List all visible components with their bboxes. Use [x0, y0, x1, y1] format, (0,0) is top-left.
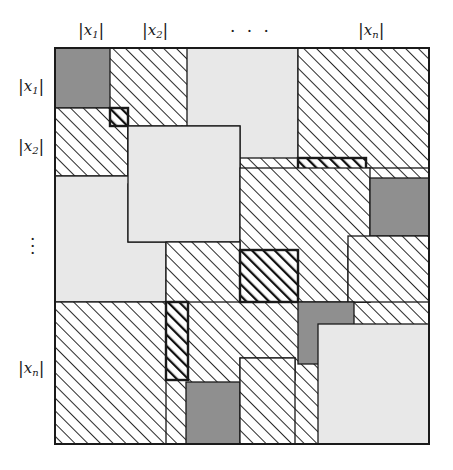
matrix-svg	[0, 0, 453, 470]
block-r6c3-hatch	[240, 358, 295, 444]
block-r1c1-dark	[55, 48, 110, 108]
block-r3c2-light-large	[128, 126, 240, 242]
block-r4c2-hatch	[166, 242, 240, 302]
block-r4c3-dark-hatch	[240, 250, 298, 302]
matrix-blocks-group	[55, 48, 429, 444]
block-r6c2-dark	[186, 382, 240, 444]
block-r2c2-small-dark-hatch	[110, 108, 128, 126]
block-r5c2-dark-hatch-strip	[166, 302, 188, 380]
block-r3c4-dark	[370, 178, 429, 236]
block-r5c1-hatch	[55, 302, 166, 444]
block-matrix-figure: |x1| |x2| · · · |xn| |x1| |x2| · · · |xn…	[0, 0, 453, 470]
block-r6c4-light	[318, 324, 429, 444]
block-r4c4-hatch	[348, 236, 429, 302]
block-r1c4-hatch	[298, 48, 429, 168]
